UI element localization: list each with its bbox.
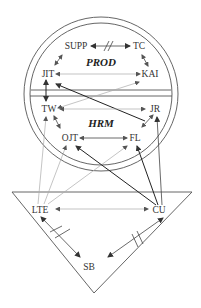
node-jit: JIT xyxy=(42,69,55,79)
node-tc: TC xyxy=(133,41,145,51)
node-kai: KAI xyxy=(142,69,159,79)
node-tw: TW xyxy=(42,104,57,114)
section-divider xyxy=(30,90,172,96)
section-title-hrm: HRM xyxy=(87,117,115,129)
relationship-diagram: PROD HRM SUPP TC JIT KAI TW JR OJT FL LT… xyxy=(0,0,201,308)
cross-edges xyxy=(46,80,145,121)
node-fl: FL xyxy=(129,133,140,143)
node-sb: SB xyxy=(83,262,95,272)
node-jr: JR xyxy=(150,104,161,114)
section-title-prod: PROD xyxy=(86,56,116,68)
node-cu: CU xyxy=(152,205,165,215)
node-lte: LTE xyxy=(32,205,49,215)
node-ojt: OJT xyxy=(62,133,79,143)
node-supp: SUPP xyxy=(65,41,88,51)
